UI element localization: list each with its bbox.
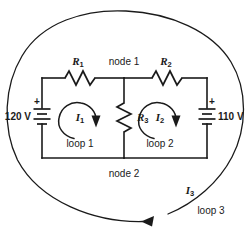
circuit-diagram: R1 R2 R3 node 1 node 2 120 V + 110 V + I… [0, 0, 250, 236]
current-i2-label: I2 [155, 111, 164, 125]
loop3-label: loop 3 [197, 205, 225, 216]
circuit-schematic-canvas: R1 R2 R3 node 1 node 2 120 V + 110 V + I… [0, 0, 250, 236]
resistor-r1-zigzag [65, 71, 95, 85]
battery-120v-plus-sign: + [34, 96, 40, 107]
node2-label: node 2 [109, 168, 140, 179]
resistor-r2-label: R2 [159, 55, 172, 69]
loop3-arrowhead [141, 216, 154, 227]
resistor-r3-label: R3 [136, 111, 149, 125]
battery-120v-label: 120 V [5, 111, 31, 122]
battery-110v-label: 110 V [218, 111, 244, 122]
current-i3-label: I3 [185, 184, 194, 198]
node1-label: node 1 [109, 56, 140, 67]
resistor-r1-label: R1 [71, 55, 84, 69]
loop1-arrowhead [92, 116, 101, 128]
battery-110v-plus-sign: + [209, 96, 215, 107]
loop1-label: loop 1 [66, 138, 94, 149]
resistor-r3-zigzag [117, 103, 131, 132]
loop2-arrowhead [172, 116, 181, 128]
current-i1-label: I1 [75, 111, 84, 125]
resistor-r2-zigzag [152, 71, 182, 85]
loop2-label: loop 2 [146, 138, 174, 149]
